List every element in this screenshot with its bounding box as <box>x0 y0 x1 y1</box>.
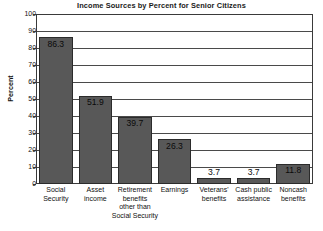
y-tick-label: 40 <box>6 112 36 119</box>
y-tick-label: 30 <box>6 129 36 136</box>
bar <box>79 96 113 184</box>
chart-title: Income Sources by Percent for Senior Cit… <box>0 1 323 10</box>
x-category-label-line: benefits <box>111 195 159 204</box>
y-tick-label: 90 <box>6 27 36 34</box>
bar-value-label: 51.9 <box>79 98 113 107</box>
bar-value-label: 3.7 <box>197 168 231 177</box>
bar <box>39 37 73 184</box>
y-tick-label: 50 <box>6 95 36 102</box>
bar <box>197 178 231 184</box>
bar <box>237 178 271 184</box>
bar-value-label: 3.7 <box>237 168 271 177</box>
x-category-label: Noncashbenefits <box>269 186 317 203</box>
x-category-label-line: benefits <box>269 195 317 204</box>
y-tick-label: 60 <box>6 78 36 85</box>
y-tick-label: 20 <box>6 146 36 153</box>
y-tick-label: 70 <box>6 61 36 68</box>
y-tick-label: 100 <box>6 10 36 17</box>
bar-value-label: 39.7 <box>118 119 152 128</box>
bar-value-label: 11.8 <box>276 166 310 175</box>
y-tick-label: 10 <box>6 163 36 170</box>
bar-value-label: 86.3 <box>39 40 73 49</box>
bars-layer: 86.351.939.726.33.73.711.8 <box>36 14 313 184</box>
x-category-label-line: Social Security <box>111 212 159 221</box>
y-axis: 1009080706050403020100 <box>0 0 36 231</box>
x-axis-labels: SocialSecurityAssetincomeRetirementbenef… <box>36 186 313 231</box>
bar-value-label: 26.3 <box>158 142 192 151</box>
x-category-label-line: other than <box>111 203 159 212</box>
bar-chart: Income Sources by Percent for Senior Cit… <box>0 0 323 231</box>
x-category-label-line: Noncash <box>269 186 317 195</box>
y-tick-label: 80 <box>6 44 36 51</box>
